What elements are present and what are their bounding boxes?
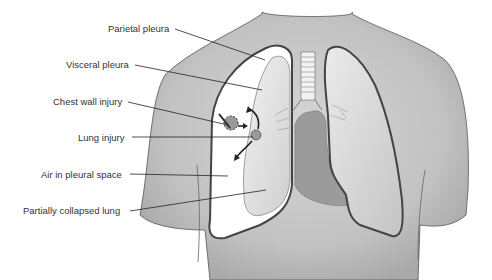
label-lung-injury: Lung injury bbox=[78, 132, 124, 143]
label-air-in-pleural-space: Air in pleural space bbox=[41, 169, 122, 180]
label-chest-wall-injury: Chest wall injury bbox=[53, 96, 122, 107]
label-partially-collapsed-lung: Partially collapsed lung bbox=[23, 205, 120, 216]
label-parietal-pleura: Parietal pleura bbox=[108, 23, 169, 34]
pneumothorax-diagram bbox=[0, 0, 492, 280]
label-visceral-pleura: Visceral pleura bbox=[66, 59, 129, 70]
lung-injury-marker bbox=[251, 130, 261, 140]
